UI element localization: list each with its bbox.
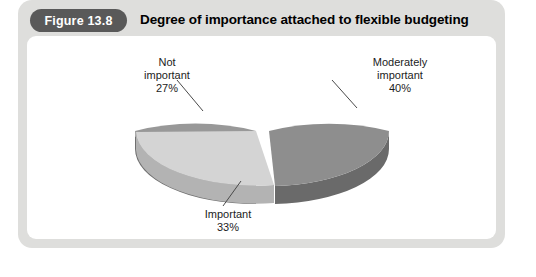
pie-label-moderately-important: Moderately important 40% bbox=[352, 56, 448, 95]
pie-label-not-important-line2: important bbox=[144, 69, 190, 81]
pie-label-moderately-important-line2: important bbox=[377, 69, 423, 81]
pie-label-not-important-line1: Not bbox=[158, 56, 175, 68]
figure-header: Figure 13.8 Degree of importance attache… bbox=[18, 0, 505, 40]
figure-number-badge: Figure 13.8 bbox=[30, 9, 127, 32]
figure-frame: Figure 13.8 Degree of importance attache… bbox=[18, 0, 505, 248]
pie-label-moderately-important-line1: Moderately bbox=[373, 56, 427, 68]
pie-value-not-important: 27% bbox=[124, 82, 210, 95]
pie-value-moderately-important: 40% bbox=[352, 82, 448, 95]
pie-label-not-important: Not important 27% bbox=[124, 56, 210, 95]
pie-chart: Not important 27% Moderately important 4… bbox=[27, 36, 496, 239]
pie-label-important: Important 33% bbox=[185, 208, 271, 234]
chart-panel: Not important 27% Moderately important 4… bbox=[27, 36, 496, 239]
pie-value-important: 33% bbox=[185, 221, 271, 234]
figure-title: Degree of importance attached to flexibl… bbox=[140, 12, 469, 27]
pie-label-important-line1: Important bbox=[205, 208, 251, 220]
figure-number-label: Figure 13.8 bbox=[44, 14, 112, 28]
